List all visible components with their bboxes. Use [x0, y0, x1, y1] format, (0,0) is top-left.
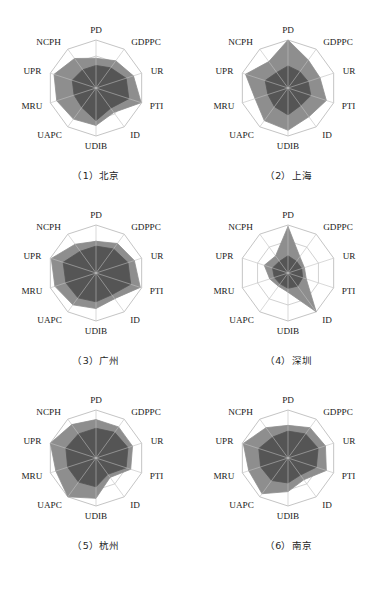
panel-caption-1: （1）北京 — [72, 168, 119, 182]
axis-label-ur: UR — [150, 436, 164, 446]
radar-panel-5: PDGDPPCURPTIIDUDIBUAPCMRUUPRNCPH（5）杭州 — [0, 388, 192, 578]
axis-label-udib: UDIB — [84, 141, 106, 151]
radar-chart-grid: PDGDPPCURPTIIDUDIBUAPCMRUUPRNCPH（1）北京PDG… — [0, 0, 385, 603]
axis-label-udib: UDIB — [277, 511, 299, 521]
axis-label-id: ID — [130, 500, 140, 510]
axis-label-pd: PD — [282, 210, 294, 220]
axis-label-ur: UR — [150, 251, 164, 261]
axis-label-ncph: NCPH — [36, 407, 61, 417]
axis-label-pti: PTI — [149, 101, 163, 111]
axis-label-pti: PTI — [342, 471, 356, 481]
axis-label-upr: UPR — [215, 251, 234, 261]
axis-label-gdppc: GDPPC — [131, 407, 161, 417]
axis-label-mru: MRU — [21, 471, 42, 481]
axis-label-ncph: NCPH — [228, 407, 253, 417]
axis-label-upr: UPR — [23, 66, 42, 76]
radar-chart-6: PDGDPPCURPTIIDUDIBUAPCMRUUPRNCPH — [201, 388, 376, 540]
radar-panel-3: PDGDPPCURPTIIDUDIBUAPCMRUUPRNCPH（3）广州 — [0, 203, 192, 388]
axis-label-upr: UPR — [215, 66, 234, 76]
axis-label-upr: UPR — [215, 436, 234, 446]
axis-label-mru: MRU — [21, 101, 42, 111]
axis-label-uapc: UAPC — [37, 500, 62, 510]
axis-label-pd: PD — [90, 210, 102, 220]
axis-label-uapc: UAPC — [229, 315, 254, 325]
axis-label-mru: MRU — [213, 101, 234, 111]
axis-label-udib: UDIB — [277, 326, 299, 336]
panel-caption-2: （2）上海 — [265, 168, 312, 182]
axis-label-ncph: NCPH — [228, 222, 253, 232]
axis-label-pti: PTI — [149, 471, 163, 481]
panel-caption-5: （5）杭州 — [72, 538, 119, 552]
radar-chart-1: PDGDPPCURPTIIDUDIBUAPCMRUUPRNCPH — [9, 18, 184, 170]
radar-panel-1: PDGDPPCURPTIIDUDIBUAPCMRUUPRNCPH（1）北京 — [0, 18, 192, 203]
radar-chart-4: PDGDPPCURPTIIDUDIBUAPCMRUUPRNCPH — [201, 203, 376, 355]
axis-label-gdppc: GDPPC — [131, 37, 161, 47]
panel-caption-4: （4）深圳 — [265, 353, 312, 367]
axis-label-ncph: NCPH — [228, 37, 253, 47]
axis-label-ur: UR — [343, 436, 357, 446]
axis-label-gdppc: GDPPC — [323, 407, 353, 417]
axis-label-mru: MRU — [213, 286, 234, 296]
axis-label-gdppc: GDPPC — [131, 222, 161, 232]
axis-label-gdppc: GDPPC — [323, 222, 353, 232]
axis-label-pd: PD — [282, 25, 294, 35]
panel-caption-6: （6）南京 — [265, 538, 312, 552]
axis-label-upr: UPR — [23, 436, 42, 446]
axis-label-id: ID — [130, 130, 140, 140]
radar-panel-6: PDGDPPCURPTIIDUDIBUAPCMRUUPRNCPH（6）南京 — [192, 388, 385, 578]
axis-label-gdppc: GDPPC — [323, 37, 353, 47]
axis-label-id: ID — [322, 315, 332, 325]
axis-label-udib: UDIB — [84, 326, 106, 336]
axis-label-pti: PTI — [149, 286, 163, 296]
axis-label-ur: UR — [150, 66, 164, 76]
axis-label-uapc: UAPC — [37, 315, 62, 325]
axis-label-ncph: NCPH — [36, 222, 61, 232]
axis-label-id: ID — [322, 500, 332, 510]
axis-label-pd: PD — [90, 395, 102, 405]
axis-label-mru: MRU — [213, 471, 234, 481]
axis-label-ur: UR — [343, 251, 357, 261]
radar-chart-2: PDGDPPCURPTIIDUDIBUAPCMRUUPRNCPH — [201, 18, 376, 170]
axis-label-id: ID — [322, 130, 332, 140]
axis-label-id: ID — [130, 315, 140, 325]
axis-label-ncph: NCPH — [36, 37, 61, 47]
radar-chart-3: PDGDPPCURPTIIDUDIBUAPCMRUUPRNCPH — [9, 203, 184, 355]
axis-label-uapc: UAPC — [229, 500, 254, 510]
radar-chart-5: PDGDPPCURPTIIDUDIBUAPCMRUUPRNCPH — [9, 388, 184, 540]
panel-caption-3: （3）广州 — [72, 353, 119, 367]
axis-label-uapc: UAPC — [229, 130, 254, 140]
radar-panel-2: PDGDPPCURPTIIDUDIBUAPCMRUUPRNCPH（2）上海 — [192, 18, 385, 203]
axis-label-uapc: UAPC — [37, 130, 62, 140]
radar-panel-4: PDGDPPCURPTIIDUDIBUAPCMRUUPRNCPH（4）深圳 — [192, 203, 385, 388]
axis-label-pti: PTI — [342, 286, 356, 296]
axis-label-udib: UDIB — [277, 141, 299, 151]
axis-label-ur: UR — [343, 66, 357, 76]
axis-label-udib: UDIB — [84, 511, 106, 521]
axis-label-mru: MRU — [21, 286, 42, 296]
axis-label-pti: PTI — [342, 101, 356, 111]
axis-label-pd: PD — [90, 25, 102, 35]
axis-label-upr: UPR — [23, 251, 42, 261]
axis-label-pd: PD — [282, 395, 294, 405]
